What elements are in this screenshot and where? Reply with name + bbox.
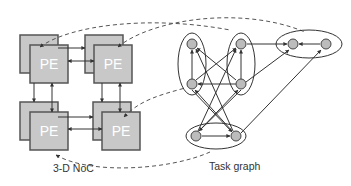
task-nodes <box>187 39 331 141</box>
task-node <box>236 39 246 49</box>
mapping-lines <box>40 18 305 168</box>
task-graph <box>178 30 342 149</box>
noc-grid: PE PE PE PE <box>20 35 140 150</box>
pe-label: PE <box>40 123 59 139</box>
task-node <box>187 39 197 49</box>
task-graph-caption: Task graph <box>209 160 261 172</box>
pe-label: PE <box>104 56 123 72</box>
noc-task-mapping-diagram: PE PE PE PE <box>0 0 351 186</box>
task-node <box>187 79 197 89</box>
task-node <box>288 39 298 49</box>
task-node <box>231 131 241 141</box>
task-node <box>321 39 331 49</box>
pe-label: PE <box>112 123 131 139</box>
pe-top-left: PE <box>30 45 68 83</box>
pe-top-right: PE <box>94 45 132 83</box>
pe-bottom-right: PE <box>102 112 140 150</box>
task-node <box>191 131 201 141</box>
pe-label: PE <box>40 56 59 72</box>
noc-caption: 3-D NoC <box>53 162 94 174</box>
pe-bottom-left: PE <box>30 112 68 150</box>
task-node <box>236 79 246 89</box>
